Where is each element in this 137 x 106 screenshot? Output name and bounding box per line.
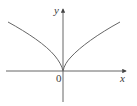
origin-label: 0 — [56, 72, 62, 84]
y-axis-label: y — [53, 4, 59, 16]
x-axis-label: x — [119, 72, 125, 84]
curve-right-branch — [63, 22, 120, 71]
curve-left-branch — [8, 22, 63, 71]
function-graph: y 0 x — [0, 0, 137, 106]
